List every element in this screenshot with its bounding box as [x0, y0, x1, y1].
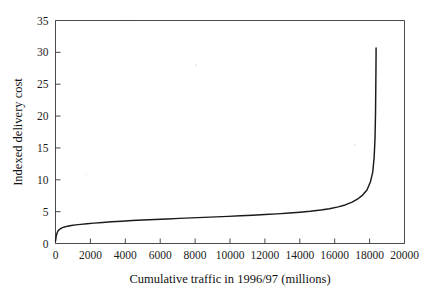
x-tick-label: 8000 — [184, 249, 207, 261]
x-axis-title: Cumulative traffic in 1996/97 (millions) — [129, 272, 330, 286]
chart-page: 05101520253035 0200040006000800010000120… — [0, 0, 426, 296]
chart-figure: 05101520253035 0200040006000800010000120… — [0, 0, 426, 296]
x-tick-label: 4000 — [114, 249, 137, 261]
x-tick-label: 0 — [53, 249, 59, 261]
y-tick-label: 35 — [37, 15, 49, 27]
x-tick-label: 18000 — [355, 249, 384, 261]
x-tick-label: 16000 — [320, 249, 349, 261]
y-tick-label: 10 — [37, 174, 49, 186]
x-tick-label: 12000 — [251, 249, 280, 261]
y-tick-label: 25 — [37, 78, 49, 90]
x-tick-label: 6000 — [149, 249, 172, 261]
x-tick-label: 14000 — [285, 249, 314, 261]
y-axis-title: Indexed delivery cost — [11, 78, 25, 186]
y-tick-label: 0 — [43, 238, 49, 250]
x-tick-label: 2000 — [79, 249, 102, 261]
y-tick-label: 20 — [37, 110, 49, 122]
x-tick-label: 10000 — [216, 249, 245, 261]
y-tick-label: 15 — [37, 142, 49, 154]
y-tick-label: 5 — [43, 206, 49, 218]
y-tick-label: 30 — [37, 46, 49, 58]
x-tick-label: 20000 — [390, 249, 419, 261]
line-chart-svg: 05101520253035 0200040006000800010000120… — [0, 0, 426, 296]
